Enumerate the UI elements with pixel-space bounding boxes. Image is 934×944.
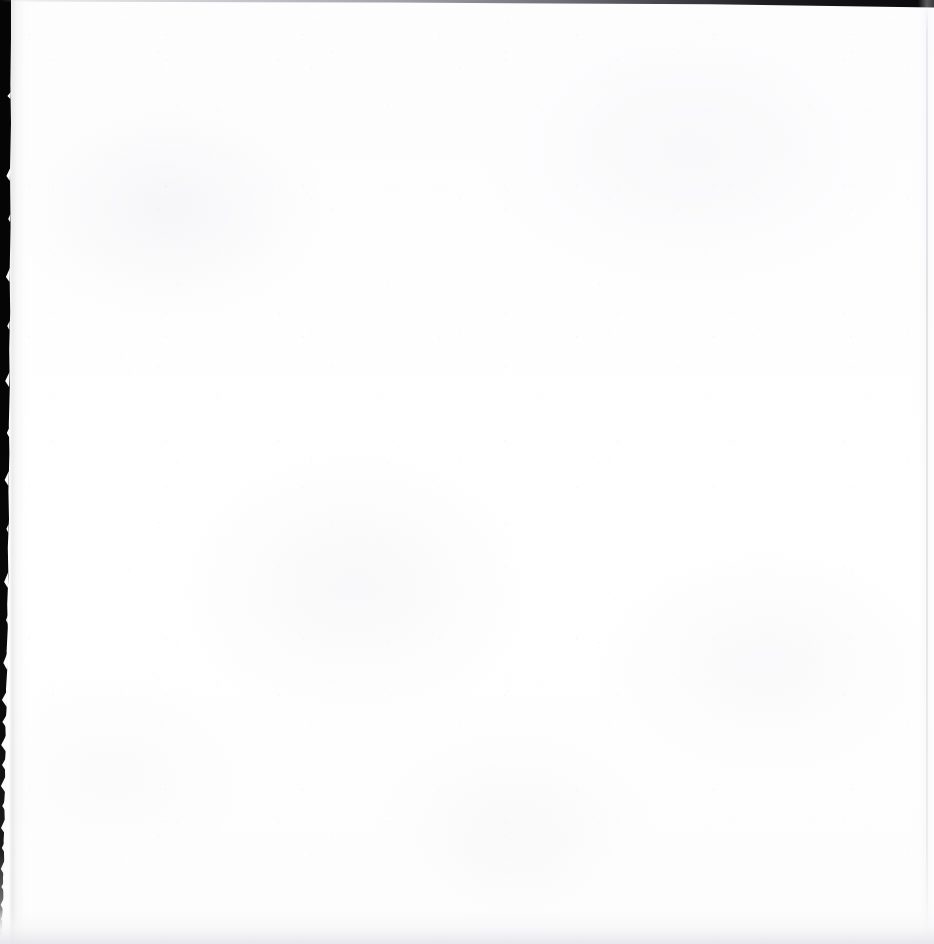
page-body [13, 11, 926, 934]
scanned-page [0, 0, 934, 944]
page-body-text [13, 11, 14, 12]
